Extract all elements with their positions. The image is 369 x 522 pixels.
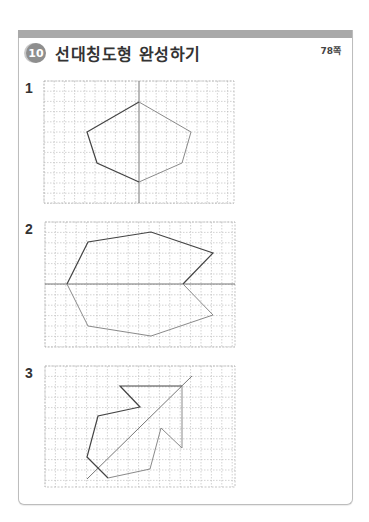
given-half-shape <box>67 232 213 284</box>
problem-3-figure <box>45 366 235 487</box>
problem-1-figure <box>44 81 234 203</box>
problem-2-figure <box>45 222 235 347</box>
symmetry-axis <box>87 376 192 479</box>
figures-canvas <box>0 0 369 522</box>
completed-half-shape <box>108 386 182 478</box>
completed-half-shape <box>67 284 213 336</box>
